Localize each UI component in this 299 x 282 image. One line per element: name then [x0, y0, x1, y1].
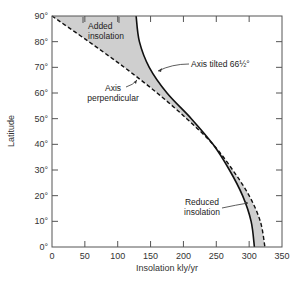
annotation-text: Axis: [105, 83, 121, 93]
y-tick-label: 80°: [34, 37, 48, 47]
y-tick-label: 70°: [34, 62, 48, 72]
shaded-region: [52, 16, 265, 247]
x-tick-label: 100: [110, 251, 125, 261]
x-tick-label: 250: [209, 251, 224, 261]
annotation-text: insolation: [184, 207, 220, 217]
annotation-text: Added: [88, 21, 113, 31]
y-tick-label: 60°: [34, 88, 48, 98]
annotation-text: insolation: [88, 31, 124, 41]
x-tick-label: 0: [49, 251, 54, 261]
x-tick-label: 50: [80, 251, 90, 261]
insolation-difference-fill: [52, 16, 265, 247]
ticks: [52, 16, 282, 247]
x-tick-label: 150: [143, 251, 158, 261]
insolation-chart: 0501001502002503003500°10°20°30°40°50°60…: [0, 0, 299, 282]
y-tick-label: 10°: [34, 216, 48, 226]
y-tick-label: 0°: [39, 242, 48, 252]
perpendicular-axis-curve: [52, 16, 265, 247]
y-tick-label: 20°: [34, 191, 48, 201]
x-tick-label: 200: [176, 251, 191, 261]
annotation-text: Reduced: [185, 197, 219, 207]
arrowhead: [158, 68, 162, 72]
x-axis-title: Insolation kly/yr: [136, 263, 198, 273]
leader-arrow: [222, 203, 248, 208]
y-tick-label: 30°: [34, 165, 48, 175]
arrowhead: [134, 80, 137, 84]
axes: [52, 16, 282, 247]
x-tick-label: 300: [242, 251, 257, 261]
x-tick-label: 350: [274, 251, 289, 261]
y-tick-label: 40°: [34, 139, 48, 149]
annotation-text: perpendicular: [87, 93, 139, 103]
curves: [52, 16, 265, 247]
leader-arrow: [158, 64, 189, 71]
annotation-text: Axis tilted 66½°: [191, 59, 250, 69]
y-axis-title: Latitude: [6, 115, 16, 147]
y-tick-label: 90°: [34, 11, 48, 21]
leader-arrow: [126, 80, 137, 87]
plot-frame: [52, 16, 282, 247]
y-tick-label: 50°: [34, 114, 48, 124]
